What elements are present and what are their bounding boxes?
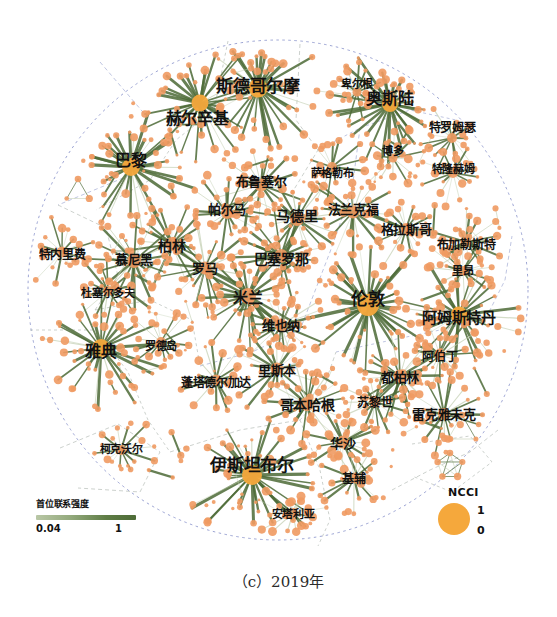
network-figure: 斯德哥尔摩赫尔辛基奥斯陆卑尔根特罗姆瑟博多特隆赫姆萨格勒布巴黎布鲁塞尔帕尔马马德… [0, 0, 557, 617]
figure-caption: （c）2019年 [0, 570, 557, 591]
ncci-legend: NCCI 1 0 [430, 486, 520, 556]
network-nodes [33, 48, 525, 536]
edge-legend-title: 首位联系强度 [36, 497, 156, 510]
ncci-legend-circle [438, 503, 470, 535]
ncci-legend-max: 1 [477, 504, 485, 517]
edge-legend-scale: 0.04 1 [36, 523, 136, 534]
ncci-legend-title: NCCI [448, 486, 479, 499]
edge-legend-gradient-bar [36, 515, 136, 520]
ncci-legend-min: 0 [477, 524, 485, 537]
edge-legend-max: 1 [115, 523, 122, 534]
edge-legend-min: 0.04 [36, 523, 61, 534]
edge-weight-legend: 首位联系强度 0.04 1 [36, 497, 156, 534]
